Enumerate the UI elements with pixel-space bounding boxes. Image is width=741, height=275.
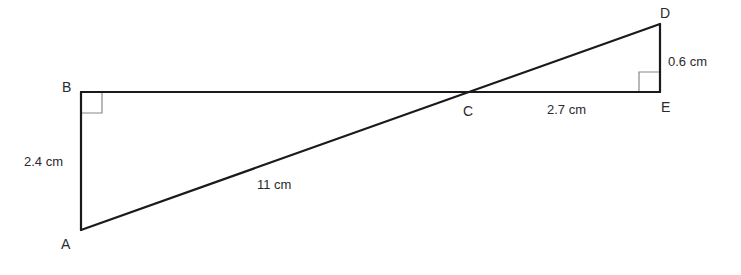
right-angle-marker-e [639,72,660,92]
point-label-c: C [463,103,473,119]
point-label-b: B [62,79,71,95]
similar-triangles-diagram: B A C D E 2.4 cm 11 cm 2.7 cm 0.6 cm [0,0,741,275]
measurement-ce: 2.7 cm [547,102,586,117]
measurement-ac: 11 cm [257,177,291,192]
point-label-a: A [61,236,71,252]
segment-ad [81,24,660,230]
point-label-d: D [660,5,670,21]
right-angle-marker-b [81,92,102,113]
measurement-ab: 2.4 cm [24,154,63,169]
point-label-e: E [661,99,670,115]
measurement-de: 0.6 cm [668,54,707,69]
